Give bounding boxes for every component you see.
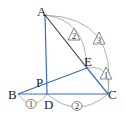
ratio-mark-DC-label: 2 <box>75 101 80 111</box>
ratio-mark-EC: 1 <box>100 67 112 80</box>
ratio-mark-AC-label: 3 <box>97 35 102 45</box>
ratio-mark-BD: 1 <box>26 99 36 109</box>
geometry-diagram: 2 3 1 1 2 A B C D E P <box>0 0 126 120</box>
point-label-C: C <box>108 87 117 102</box>
segment-BE <box>18 68 87 94</box>
ratio-mark-EC-label: 1 <box>104 70 109 80</box>
ratio-mark-AE-label: 2 <box>72 31 77 41</box>
point-label-D: D <box>44 97 53 112</box>
point-label-B: B <box>8 87 17 102</box>
point-label-A: A <box>37 4 47 19</box>
ratio-mark-DC: 2 <box>72 101 82 111</box>
point-label-E: E <box>84 54 92 69</box>
point-label-P: P <box>36 75 43 90</box>
ratio-mark-BD-label: 1 <box>29 99 34 109</box>
segment-AD <box>45 15 47 94</box>
